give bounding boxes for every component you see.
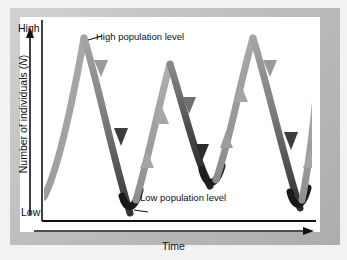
y-tick-label-low: Low [21, 206, 40, 218]
arrowhead-up-1 [140, 151, 154, 168]
plot-area [44, 20, 312, 220]
population-cycle-figure: Number of individuals (N) High Low Time … [0, 0, 347, 260]
population-curve-svg [44, 20, 312, 220]
x-axis-label: Time [0, 240, 347, 252]
leader-line-low [134, 210, 148, 212]
annotation-low-population-level: Low population level [140, 192, 226, 203]
curve-fall-segment-3 [253, 38, 300, 208]
curve-rise-segment-4 [302, 96, 312, 200]
annotation-high-population-level: High population level [96, 31, 184, 42]
y-axis-label: Number of individuals (N) [17, 29, 29, 199]
curve-rise-segment-3 [216, 38, 253, 180]
curve-fall-segment-1 [84, 38, 130, 213]
arrowhead-down-2 [114, 128, 128, 146]
curve-rise-segment-1 [44, 38, 84, 197]
curve-rise-segment-2 [136, 64, 170, 200]
y-axis-label-text: Number of individuals [17, 72, 29, 173]
y-axis-label-symbol: N [17, 58, 29, 66]
y-tick-label-high: High [18, 22, 40, 34]
